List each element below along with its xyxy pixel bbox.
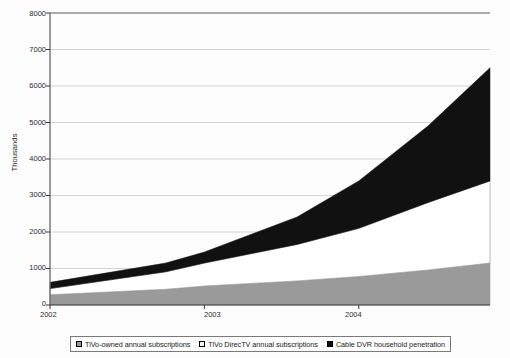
- legend-label: Cable DVR household penetration: [336, 340, 445, 349]
- legend-swatch-icon: [327, 341, 333, 347]
- legend-swatch-icon: [199, 341, 205, 347]
- legend-item-cable-dvr[interactable]: Cable DVR household penetration: [327, 340, 445, 349]
- y-tick-label: 6000: [12, 82, 46, 90]
- y-tick-label: 5000: [12, 119, 46, 127]
- y-tick-label: 3000: [12, 191, 46, 199]
- y-axis-tick-labels: 8000 7000 6000 5000 4000 3000 2000 1000 …: [6, 0, 46, 358]
- y-tick-label: 1000: [12, 264, 46, 272]
- legend-label: TiVo-owned annual subscriptions: [85, 340, 190, 349]
- chart-container: Thousands 8000 7000 6000 5000 4000 3000 …: [0, 0, 510, 358]
- y-tick-label: 2000: [12, 228, 46, 236]
- legend-item-tivo-directv[interactable]: TiVo DirecTV annual subscriptions: [199, 340, 318, 349]
- y-tick-label: 7000: [12, 46, 46, 54]
- y-tick-label: 8000: [12, 10, 46, 18]
- plot-area: [0, 0, 510, 358]
- x-tick-label: 2002: [40, 311, 57, 319]
- area-series-group: [50, 68, 490, 305]
- x-tick-label: 2004: [345, 311, 362, 319]
- legend-swatch-icon: [76, 341, 82, 347]
- x-tick-label: 2003: [204, 311, 221, 319]
- chart-legend: TiVo-owned annual subscriptions TiVo Dir…: [70, 336, 451, 352]
- legend-label: TiVo DirecTV annual subscriptions: [208, 340, 318, 349]
- y-tick-label: 0: [12, 300, 46, 308]
- legend-item-tivo-owned[interactable]: TiVo-owned annual subscriptions: [76, 340, 190, 349]
- y-tick-label: 4000: [12, 155, 46, 163]
